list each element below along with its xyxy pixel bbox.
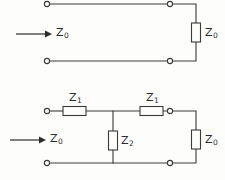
label-symbol: Z <box>50 132 58 145</box>
circuit-2-terminal-input-bottom <box>44 160 49 165</box>
circuit-2-resistor-z1-right <box>140 107 163 116</box>
circuit-figure: Z0 Z0 Z0 Z1 Z1 Z2 Z0 <box>0 0 225 180</box>
label-subscript: 0 <box>58 137 63 146</box>
circuit-2-terminal-output-top <box>167 108 172 113</box>
label-subscript: 0 <box>64 31 69 40</box>
circuit-2-resistor-z2-shunt <box>109 131 118 150</box>
circuit-1-terminal-output-top <box>167 1 172 6</box>
circuit-2-resistor-z0-load <box>192 130 201 149</box>
label-subscript: 2 <box>129 139 134 148</box>
label-symbol: Z <box>121 134 129 147</box>
label-subscript: 1 <box>77 96 82 105</box>
circuit-1-load-impedance-label: Z0 <box>205 27 217 39</box>
circuit-1-terminal-input-top <box>44 1 49 6</box>
label-symbol: Z <box>205 26 213 39</box>
circuit-2-bottom-wire <box>50 149 196 163</box>
circuit-1-terminal-input-bottom <box>44 58 49 63</box>
circuit-1-input-arrow-icon <box>16 31 52 38</box>
circuit-1-top-wire <box>50 4 196 23</box>
label-symbol: Z <box>205 133 213 146</box>
circuit-1-terminal-output-bottom <box>167 58 172 63</box>
circuit-2-tee-network <box>10 107 201 166</box>
circuit-1-input-impedance-label: Z0 <box>56 27 68 39</box>
label-symbol: Z <box>69 91 77 104</box>
label-subscript: 0 <box>213 31 218 40</box>
circuit-1-resistor-z0-load <box>192 23 201 42</box>
circuit-2-top-wire-segment-c <box>163 111 196 130</box>
circuit-2-z2-shunt-label: Z2 <box>121 135 133 147</box>
circuit-2-z1-left-label: Z1 <box>69 92 81 104</box>
circuit-2-terminal-output-bottom <box>167 160 172 165</box>
circuit-2-input-arrow-icon <box>10 137 46 144</box>
circuit-2-load-impedance-label: Z0 <box>205 134 217 146</box>
circuit-2-terminal-input-top <box>44 108 49 113</box>
label-subscript: 1 <box>154 96 159 105</box>
label-symbol: Z <box>56 26 64 39</box>
circuit-2-z1-right-label: Z1 <box>146 92 158 104</box>
label-subscript: 0 <box>213 138 218 147</box>
circuit-2-input-impedance-label: Z0 <box>50 133 62 145</box>
circuit-drawing <box>0 0 225 180</box>
circuit-1-bottom-wire <box>50 42 196 61</box>
circuit-2-resistor-z1-left <box>63 107 86 116</box>
label-symbol: Z <box>146 91 154 104</box>
circuit-1-matched-line <box>16 1 201 63</box>
